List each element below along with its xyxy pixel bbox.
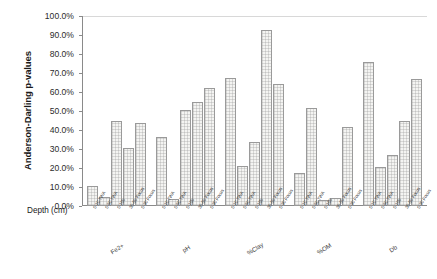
group-name-cell: %OM <box>289 243 358 277</box>
bar-group <box>289 16 358 206</box>
group-name-cell: Db <box>358 243 427 277</box>
y-axis-tick-label: 100.0% <box>45 11 74 21</box>
bar-group <box>358 16 427 206</box>
bar <box>192 102 203 207</box>
bar-group <box>220 16 289 206</box>
group-name-label: Fe2+ <box>109 242 125 256</box>
y-axis-tick-label: 10.0% <box>50 182 74 192</box>
bar <box>123 148 134 206</box>
y-axis-tick-label: 20.0% <box>50 163 74 173</box>
bar-group <box>151 16 220 206</box>
bar <box>363 62 374 206</box>
y-axis-tick-label: 50.0% <box>50 106 74 116</box>
y-axis-tick-labels: 100.0%90.0%80.0%70.0%60.0%50.0%40.0%30.0… <box>0 0 82 206</box>
group-name-cell: pH <box>151 243 220 277</box>
group-name-label: %OM <box>315 241 332 255</box>
y-axis-tick-label: 30.0% <box>50 144 74 154</box>
group-name-label: %Clay <box>245 241 264 256</box>
y-axis-tick-label: 40.0% <box>50 125 74 135</box>
x-axis-title: Depth (cm) <box>27 206 68 215</box>
group-name-label: pH <box>180 243 190 253</box>
bar <box>399 121 410 206</box>
bar-groups <box>82 16 427 206</box>
group-name-cell: %Clay <box>220 243 289 277</box>
group-name-label: Db <box>387 243 397 253</box>
bar <box>261 30 272 206</box>
y-axis-tick-label: 70.0% <box>50 68 74 78</box>
group-name-labels: Fe2+pH%Clay%OMDb <box>82 243 427 277</box>
anderson-darling-bar-chart: Anderson-Darling p-values 100.0%90.0%80.… <box>0 0 437 279</box>
y-axis-tick-label: 80.0% <box>50 49 74 59</box>
bar <box>225 78 236 206</box>
bar <box>156 137 167 206</box>
y-axis-tick-label: 90.0% <box>50 30 74 40</box>
bar-group <box>82 16 151 206</box>
group-name-cell: Fe2+ <box>82 243 151 277</box>
y-axis-tick-label: 60.0% <box>50 87 74 97</box>
